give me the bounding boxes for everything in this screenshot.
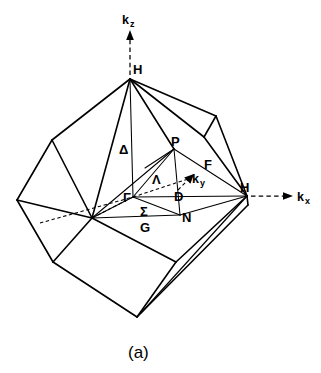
edge-upperleft-midleft: [52, 140, 92, 218]
line-Gamma-Hright: [133, 196, 247, 197]
kz-axis-label-base: k: [122, 13, 129, 27]
kx-axis-label-subscript: x: [305, 196, 310, 206]
edge-lowerleft-bottom: [53, 262, 137, 317]
edge-lowerright-bottom-inner: [141, 196, 247, 313]
label-group: k z k x k y H H P Γ N G Δ Λ Σ D F: [119, 13, 310, 235]
ky-axis-label-base: k: [192, 172, 199, 186]
edge-Htop-upperright: [130, 79, 216, 116]
point-label-H-top: H: [133, 62, 142, 77]
point-label-P: P: [171, 134, 180, 149]
line-P-upper-left-ridge: [145, 149, 174, 168]
edge-left-lowerleft: [17, 200, 53, 262]
brillouin-zone-figure: k z k x k y H H P Γ N G Δ Λ Σ D F (a): [0, 0, 321, 373]
point-label-N: N: [182, 210, 191, 225]
line-hidden-ky-negative: [40, 197, 133, 223]
line-label-Sigma: Σ: [140, 204, 148, 219]
polyhedron-outline: [17, 79, 248, 317]
edge-upperright-vtx-ridge: [204, 116, 216, 137]
edge-midleft-lowerleft: [53, 218, 92, 262]
line-label-Lambda: Λ: [152, 172, 161, 187]
point-label-G: G: [140, 220, 150, 235]
edge-bottomface-bottom: [137, 262, 176, 317]
point-label-H-right: H: [240, 180, 249, 195]
kz-axis-label-subscript: z: [130, 19, 135, 29]
ky-axis-label-subscript: y: [200, 178, 205, 188]
figure-caption: (a): [128, 343, 149, 362]
edge-upperleft-left: [17, 140, 52, 200]
brillouin-zone-drawing: k z k x k y H H P Γ N G Δ Λ Σ D F (a): [0, 0, 321, 373]
line-midleft-N: [92, 215, 180, 218]
line-label-Delta: Δ: [119, 142, 128, 157]
kx-arrow-head: [283, 192, 293, 200]
edge-Hright-lowerright: [247, 196, 248, 205]
line-label-D: D: [174, 189, 183, 204]
edge-lowerright-bottom-outer: [137, 205, 248, 317]
point-label-Gamma: Γ: [123, 190, 131, 205]
edge-Htop-P: [130, 79, 174, 149]
edge-midleft-bottomface: [92, 218, 176, 262]
edge-midleft-left-connector: [17, 200, 92, 218]
kz-arrow-head: [126, 30, 134, 40]
line-label-F: F: [204, 157, 212, 172]
edge-Htop-upperright-ridge: [130, 79, 204, 137]
kx-axis-label-base: k: [297, 190, 304, 204]
edge-Htop-upperleft: [52, 79, 130, 140]
line-Delta-Gamma-H: [130, 79, 133, 197]
